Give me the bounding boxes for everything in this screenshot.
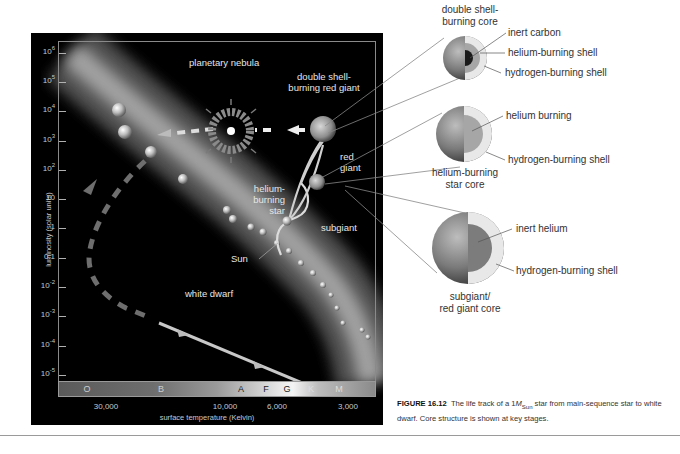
label-helium-burning: helium burning <box>506 110 572 122</box>
figure-caption: FIGURE 16.12 The life track of a 1MSun s… <box>397 398 677 424</box>
label-subgiant: subgiant <box>321 222 357 233</box>
label-hydrogen-burning-shell-3: hydrogen-burning shell <box>516 265 618 277</box>
spectral-b: B <box>158 384 164 394</box>
label-double-shell-red-giant: double shell-burning red giant <box>279 71 369 93</box>
xtick-6000: 6,000 <box>267 402 287 411</box>
ytick-label-1e4: 104 <box>31 105 55 115</box>
y-axis-title: luminosity (solar units) <box>44 175 53 285</box>
label-white-dwarf: white dwarf <box>185 288 233 299</box>
ytick-label-1e-3: 10-3 <box>31 310 55 320</box>
spectral-class-bar: O B A F G K M <box>58 381 376 397</box>
label-hydrogen-burning-shell-1: hydrogen-burning shell <box>505 67 607 79</box>
ytick-label-1e6: 106 <box>31 47 55 57</box>
ytick-label-1e3: 103 <box>31 135 55 145</box>
label-hydrogen-burning-shell-2: hydrogen-burning shell <box>508 154 610 166</box>
label-inert-carbon: inert carbon <box>508 27 561 39</box>
xtick-10000: 10,000 <box>213 402 237 411</box>
label-helium-burning-star: helium-burningstar <box>247 183 285 216</box>
xtick-30000: 30,000 <box>94 402 118 411</box>
label-sun: Sun <box>231 253 248 264</box>
page-rule <box>0 435 680 436</box>
spectral-a: A <box>238 384 244 394</box>
hr-diagram-panel: 106 105 104 103 102 10 1 0.1 10-2 10-3 1… <box>31 33 383 425</box>
spectral-o: O <box>83 384 90 394</box>
core-title-helium-burning: helium-burningstar core <box>425 167 505 191</box>
ytick-label-1e-5: 10-5 <box>31 369 55 379</box>
figure-number: FIGURE 16.12 <box>397 399 447 408</box>
core-title-double-shell: double shell-burning core <box>435 4 505 28</box>
spectral-k: K <box>308 384 314 394</box>
spectral-f: F <box>263 384 269 394</box>
ytick-label-1e-4: 10-4 <box>31 340 55 350</box>
spectral-g: G <box>283 384 290 394</box>
spectral-m: M <box>335 384 343 394</box>
core-title-subgiant: subgiant/red giant core <box>425 291 515 315</box>
ytick-label-1e2: 102 <box>31 164 55 174</box>
label-planetary-nebula: planetary nebula <box>189 57 259 68</box>
ytick-label-1e5: 105 <box>31 76 55 86</box>
x-axis-title: surface temperature (Kelvin) <box>31 413 383 422</box>
xtick-3000: 3,000 <box>338 402 358 411</box>
label-inert-helium: inert helium <box>516 223 568 235</box>
label-red-giant: redgiant <box>340 151 361 173</box>
label-helium-burning-shell: helium-burning shell <box>508 47 598 59</box>
